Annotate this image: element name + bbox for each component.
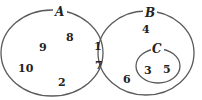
element-8: 8 <box>66 31 74 44</box>
element-1: 1 <box>94 40 102 53</box>
element-9: 9 <box>39 41 47 54</box>
element-4: 4 <box>142 23 150 36</box>
set-a-outline <box>1 10 103 96</box>
venn-diagram: A B C 9 8 10 2 1 7 4 6 3 5 <box>0 0 202 100</box>
set-c-label: C <box>152 42 162 56</box>
element-10: 10 <box>18 62 34 75</box>
element-6: 6 <box>123 73 131 86</box>
set-b-label: B <box>144 6 155 20</box>
element-2: 2 <box>58 76 66 89</box>
set-a-label: A <box>54 5 64 19</box>
element-7: 7 <box>95 59 103 72</box>
element-5: 5 <box>163 63 171 76</box>
element-3: 3 <box>144 64 152 77</box>
